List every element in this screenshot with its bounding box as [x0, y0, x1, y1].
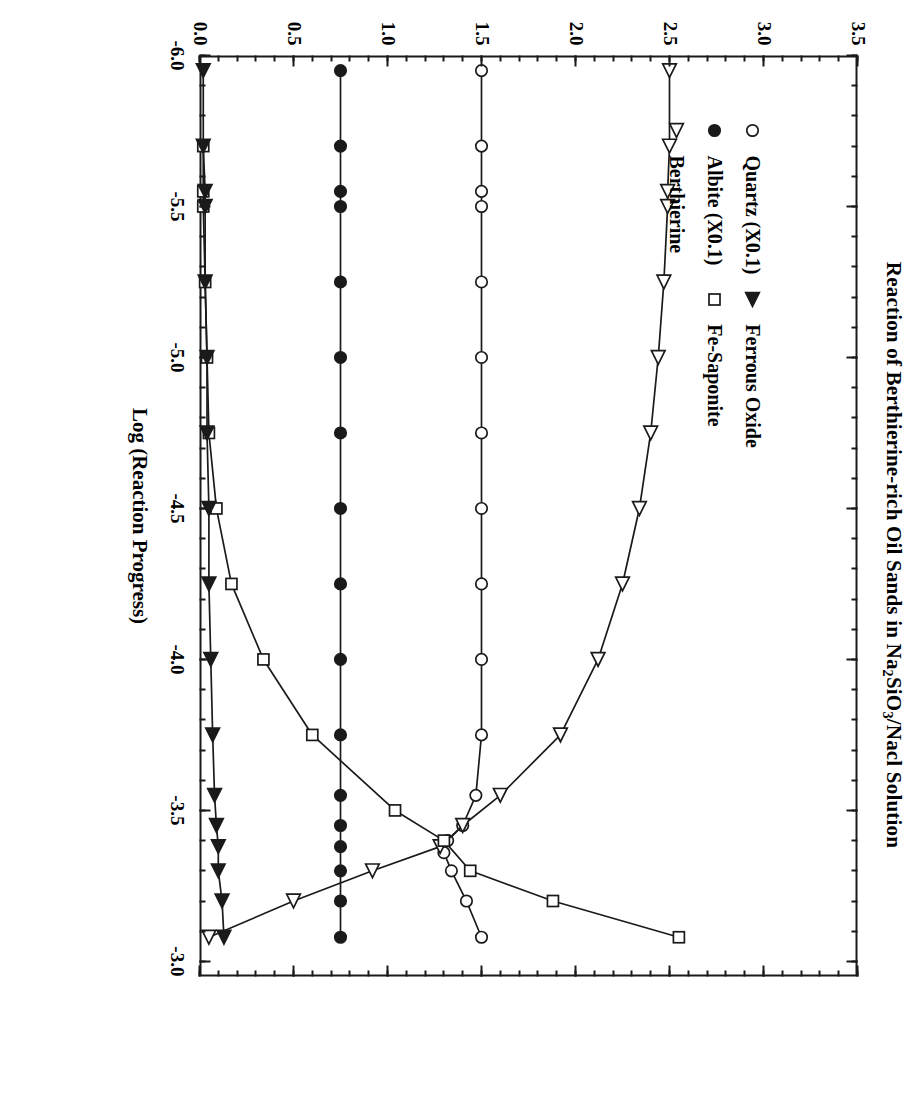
- legend-marker-filled-circle-icon: [701, 117, 727, 143]
- axis-tick: [851, 537, 857, 539]
- open-circle-icon: [445, 865, 456, 876]
- filled-circle-icon: [334, 819, 345, 830]
- axis-tick: [442, 55, 444, 61]
- axis-tick: [367, 55, 369, 61]
- title-sub-2: 2: [879, 669, 895, 676]
- axis-tick: [199, 386, 205, 388]
- axis-tick: [851, 869, 857, 871]
- axis-tick: [837, 55, 839, 61]
- x-tick-label: -5.5: [165, 191, 187, 221]
- axis-tick: [311, 970, 313, 976]
- axis-tick: [818, 970, 820, 976]
- series-line: [203, 146, 679, 937]
- legend-label: Albite (X0.1): [703, 155, 726, 274]
- open-square-icon: [673, 931, 684, 942]
- open-square-icon: [257, 653, 268, 664]
- x-tick-label: -3.5: [165, 795, 187, 825]
- axis-tick: [386, 965, 388, 976]
- filled-circle-icon: [334, 840, 345, 851]
- axis-tick: [851, 114, 857, 116]
- legend-label: Fe-Saponite: [703, 324, 726, 448]
- axis-tick: [743, 55, 745, 61]
- y-tick-label: 2.5: [658, 0, 680, 45]
- axis-tick: [837, 970, 839, 976]
- open-circle-icon: [746, 124, 757, 135]
- axis-tick: [236, 55, 238, 61]
- open-circle-icon: [475, 931, 486, 942]
- open-circle-icon: [475, 427, 486, 438]
- axis-tick: [851, 628, 857, 630]
- filled-circle-icon: [334, 931, 345, 942]
- y-tick-label: 0.0: [188, 0, 210, 45]
- open-circle-icon: [475, 502, 486, 513]
- axis-tick: [199, 900, 205, 902]
- axis-tick: [199, 567, 205, 569]
- axis-tick: [851, 839, 857, 841]
- axis-tick: [199, 54, 210, 56]
- axis-tick: [724, 55, 726, 61]
- axis-tick: [199, 598, 205, 600]
- axis-tick: [612, 55, 614, 61]
- open-circle-icon: [475, 200, 486, 211]
- legend-label: Ferrous Oxide: [741, 324, 764, 448]
- axis-tick: [461, 55, 463, 61]
- filled-triangle-right-icon: [217, 930, 231, 944]
- y-tick-label: 0.5: [282, 0, 304, 45]
- axis-tick: [292, 55, 294, 66]
- axis-tick: [846, 507, 857, 509]
- axis-tick: [199, 749, 205, 751]
- axis-tick: [851, 718, 857, 720]
- open-triangle-right-icon: [615, 577, 629, 591]
- axis-tick: [743, 970, 745, 976]
- axis-tick: [199, 356, 210, 358]
- axis-tick: [630, 970, 632, 976]
- axis-tick: [367, 970, 369, 976]
- axis-tick: [846, 205, 857, 207]
- axis-tick: [851, 447, 857, 449]
- open-square-icon: [306, 729, 317, 740]
- axis-tick: [574, 55, 576, 66]
- filled-circle-icon: [334, 653, 345, 664]
- axis-tick: [330, 55, 332, 61]
- filled-triangle-right-icon: [207, 788, 221, 802]
- axis-tick: [781, 55, 783, 61]
- axis-tick: [851, 567, 857, 569]
- axis-tick: [199, 628, 205, 630]
- axis-tick: [405, 970, 407, 976]
- legend-marker-empty: [663, 286, 689, 312]
- axis-tick: [851, 175, 857, 177]
- filled-circle-icon: [708, 124, 719, 135]
- open-square-icon: [438, 835, 449, 846]
- axis-tick: [199, 718, 205, 720]
- axis-tick: [818, 55, 820, 61]
- axis-tick: [199, 779, 205, 781]
- axis-tick: [846, 54, 857, 56]
- series-line: [208, 70, 669, 937]
- axis-tick: [330, 970, 332, 976]
- axis-tick: [851, 900, 857, 902]
- x-tick-label: -6.0: [165, 40, 187, 70]
- x-tick-label: -3.0: [165, 946, 187, 976]
- y-tick-label: 2.0: [564, 0, 586, 45]
- x-tick-label: -5.0: [165, 342, 187, 372]
- axis-tick: [851, 749, 857, 751]
- axis-tick: [574, 965, 576, 976]
- axis-tick: [199, 869, 205, 871]
- legend-label: Berthierine: [665, 155, 688, 274]
- axis-tick: [199, 688, 205, 690]
- filled-triangle-right-icon: [745, 292, 759, 306]
- axis-tick: [800, 970, 802, 976]
- axis-tick: [199, 84, 205, 86]
- legend-marker-open-circle-icon: [739, 117, 765, 143]
- axis-tick: [851, 477, 857, 479]
- axis-tick: [555, 55, 557, 61]
- filled-circle-icon: [334, 140, 345, 151]
- axis-tick: [199, 537, 205, 539]
- legend-label: Quartz (X0.1): [741, 155, 764, 274]
- axis-tick: [856, 965, 858, 976]
- axis-tick: [199, 205, 210, 207]
- legend-marker-filled-triangle-right-icon: [739, 286, 765, 312]
- axis-tick: [593, 970, 595, 976]
- axis-tick: [649, 55, 651, 61]
- axis-tick: [687, 970, 689, 976]
